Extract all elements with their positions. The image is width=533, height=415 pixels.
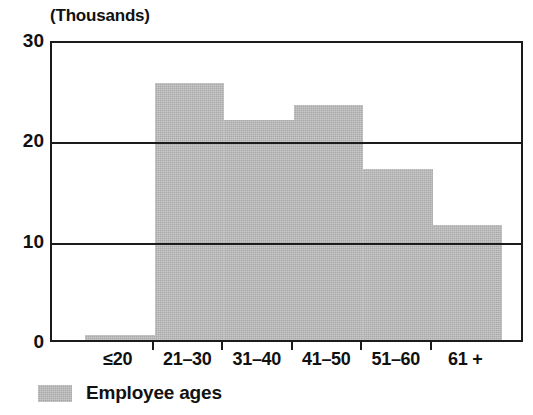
- bar-4150: [294, 105, 364, 340]
- x-tick-3: [291, 342, 293, 350]
- y-axis-label-30: 30: [0, 31, 44, 50]
- bar-20: [85, 335, 155, 340]
- x-tick-1: [152, 342, 154, 350]
- y-axis-label-20: 20: [0, 131, 44, 150]
- legend-swatch-employee-ages: [38, 385, 72, 402]
- x-tick-5: [430, 342, 432, 350]
- legend: Employee ages: [38, 382, 222, 404]
- y-axis-unit-title: (Thousands): [50, 6, 150, 26]
- bar-5160: [363, 169, 433, 340]
- x-axis-label-1: 21–30: [163, 349, 212, 370]
- x-axis-label-3: 41–50: [302, 349, 351, 370]
- y-axis-label-10: 10: [0, 232, 44, 251]
- x-tick-2: [221, 342, 223, 350]
- gridline-20: [52, 142, 521, 144]
- x-axis-label-5: 61 +: [448, 349, 482, 370]
- bar-3140: [224, 120, 294, 340]
- x-tick-4: [360, 342, 362, 350]
- plot-area: [50, 41, 523, 342]
- x-axis-label-4: 51–60: [371, 349, 420, 370]
- bar-2130: [155, 83, 225, 340]
- legend-label-employee-ages: Employee ages: [86, 382, 222, 404]
- bars-group: [52, 43, 521, 340]
- x-axis-label-2: 31–40: [232, 349, 281, 370]
- employee-ages-histogram: (Thousands) 0 10 20 30 ≤2021–3031–4041–5…: [0, 0, 533, 415]
- y-axis-label-0: 0: [0, 332, 44, 351]
- x-axis-label-0: ≤20: [103, 349, 132, 370]
- gridline-10: [52, 243, 521, 245]
